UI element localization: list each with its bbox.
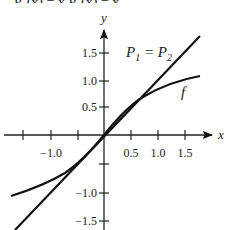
x-tick-label-1.5: 1.5 — [178, 146, 193, 160]
x-axis-label: x — [217, 127, 224, 142]
line-label-p1-eq-p2: P1 = P2 — [125, 44, 172, 63]
y-tick-label-0.5: 0.5 — [82, 100, 97, 114]
x-tick-label-0.5: 0.5 — [124, 146, 139, 160]
curve-label-f: f — [181, 84, 187, 100]
y-tick-label-1.0: 1.0 — [82, 74, 97, 88]
y-tick-label-m1.5: −1.5 — [75, 214, 97, 228]
x-tick-label-1.0: 1.0 — [151, 146, 166, 160]
x-tick-label-m1.0: −1.0 — [40, 146, 62, 160]
y-tick-label-1.5: 1.5 — [82, 46, 97, 60]
y-tick-label-m1.0: −1.0 — [75, 186, 97, 200]
chart-figure: −1.0 0.5 1.0 1.5 1.5 1.0 0.5 −1.0 −1.5 x… — [0, 0, 226, 230]
y-axis-label: y — [99, 10, 107, 25]
series-line-p1-p2 — [15, 36, 200, 230]
